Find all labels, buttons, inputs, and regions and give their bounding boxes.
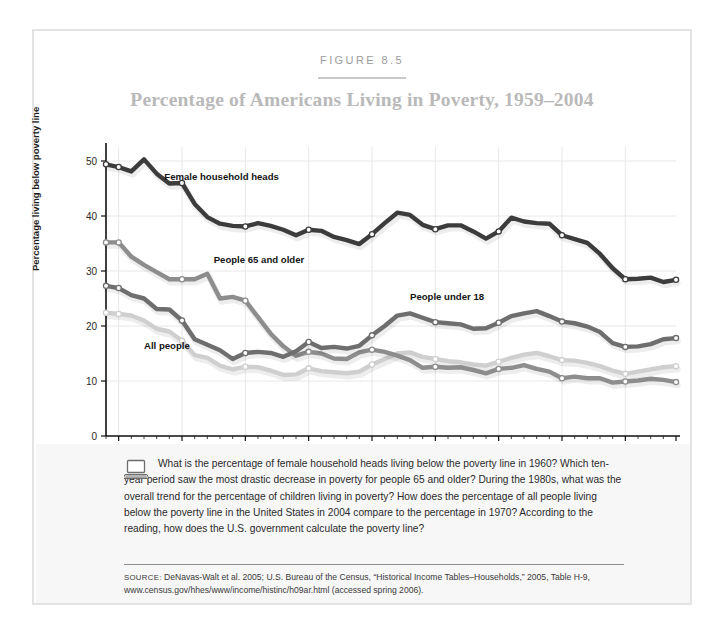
data-point [369,347,374,352]
data-point [623,379,628,384]
data-point [496,229,501,234]
data-point [496,366,501,371]
caption-text: What is the percentage of female househo… [124,456,624,537]
y-tick-label: 20 [86,321,98,332]
data-point [369,232,374,237]
data-point [116,311,121,316]
data-point [623,344,628,349]
data-point [623,277,628,282]
source-label: SOURCE: [124,573,162,582]
data-point [179,318,184,323]
data-point [559,319,564,324]
data-point [243,350,248,355]
data-point [433,356,438,361]
data-point [559,358,564,363]
data-point [433,364,438,369]
data-point [306,366,311,371]
y-tick-label: 30 [86,266,98,277]
data-point [673,277,678,282]
y-axis-label: Percentage living below poverty line [30,107,41,271]
series-label: People 65 and older [214,254,305,265]
data-point [433,227,438,232]
data-point [116,285,121,290]
chart-plot-area: Percentage living below poverty line 010… [34,121,694,451]
source-divider [124,564,624,565]
data-point [243,224,248,229]
y-tick-label: 50 [86,156,98,167]
data-point [306,227,311,232]
figure-card: FIGURE 8.5 Percentage of Americans Livin… [32,29,692,605]
data-point [116,164,121,169]
figure-divider [318,77,406,79]
data-point [103,310,108,315]
data-point [306,339,311,344]
data-point [103,283,108,288]
data-point [496,320,501,325]
data-point [673,336,678,341]
poverty-line-chart: 0102030405019601965197019751980198519901… [34,121,694,451]
source-body: DeNavas-Walt et al. 2005; U.S. Bureau of… [124,572,590,595]
data-point [243,298,248,303]
y-tick-label: 40 [86,211,98,222]
series-label: Female household heads [164,171,279,182]
figure-number: FIGURE 8.5 [34,54,690,66]
data-point [243,364,248,369]
laptop-icon [124,459,150,481]
data-point [103,162,108,167]
caption-band: What is the percentage of female househo… [36,444,690,603]
data-point [369,333,374,338]
data-point [673,364,678,369]
caption-block: What is the percentage of female househo… [124,456,624,537]
data-point [369,362,374,367]
data-point [559,376,564,381]
data-point [116,240,121,245]
figure-title: Percentage of Americans Living in Povert… [34,89,690,111]
data-point [496,359,501,364]
data-point [559,233,564,238]
source-text: SOURCE: DeNavas-Walt et al. 2005; U.S. B… [124,571,632,598]
data-point [623,371,628,376]
y-tick-label: 10 [86,376,98,387]
data-point [673,380,678,385]
series-label: All people [144,340,190,351]
data-point [179,277,184,282]
data-point [433,320,438,325]
series-label: People under 18 [410,291,485,302]
data-point [103,240,108,245]
y-tick-label: 0 [91,431,97,442]
